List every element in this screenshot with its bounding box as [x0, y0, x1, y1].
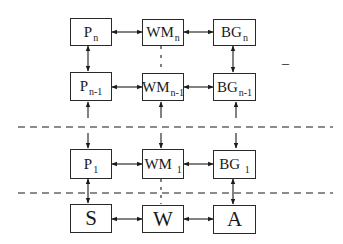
stray-dash-mark: – — [282, 56, 289, 72]
node-label: W — [153, 209, 173, 230]
node-p-n: Pn — [70, 18, 112, 46]
node-a: A — [213, 205, 256, 234]
node-bg-n: BGn — [213, 19, 256, 46]
node-label: BGn — [221, 25, 248, 40]
node-wm-1: WM 1 — [142, 149, 184, 179]
node-label: WMn-1 — [142, 80, 184, 95]
node-bg-1: BG 1 — [213, 150, 256, 179]
node-label: Pn-1 — [80, 79, 103, 94]
node-label: P1 — [84, 157, 98, 172]
node-s: S — [70, 204, 112, 233]
node-w: W — [142, 205, 184, 233]
node-p-n-1: Pn-1 — [70, 72, 112, 101]
node-bg-n-1: BGn-1 — [213, 73, 256, 101]
node-label: WM 1 — [144, 157, 181, 172]
node-label: BGn-1 — [217, 80, 252, 95]
node-label: Pn — [84, 25, 98, 40]
node-label: S — [85, 208, 97, 229]
node-label: A — [227, 209, 242, 230]
node-p-1: P1 — [70, 149, 112, 179]
node-label: WMn — [146, 25, 180, 40]
node-wm-n: WMn — [142, 19, 184, 46]
node-wm-n-1: WMn-1 — [142, 73, 184, 101]
node-label: BG 1 — [219, 157, 250, 172]
